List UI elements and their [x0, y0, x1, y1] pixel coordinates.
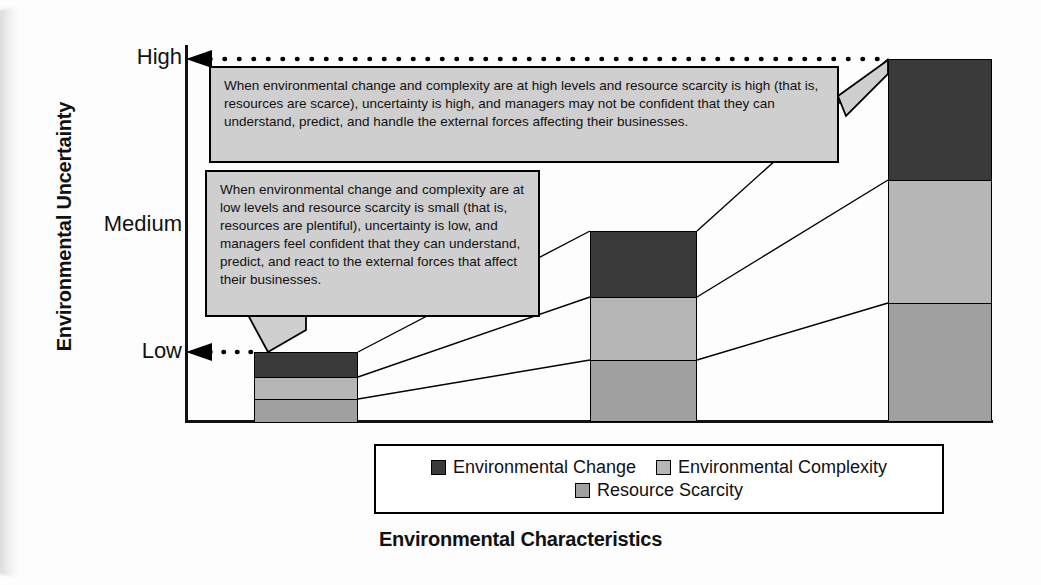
arrow-low-icon: [186, 343, 212, 361]
bar-segment-environmental-change: [254, 352, 358, 378]
bar-stack-high: [888, 59, 992, 422]
bar-segment-environmental-complexity: [254, 377, 358, 400]
legend-label-environmental-change: Environmental Change: [453, 457, 636, 478]
bar-segment-environmental-complexity: [590, 297, 697, 361]
bar-segment-resource-scarcity: [888, 303, 992, 422]
bar-segment-environmental-change: [590, 231, 697, 298]
callout-tail-low: [248, 315, 306, 352]
legend-row-top: Environmental Change Environmental Compl…: [431, 457, 887, 478]
legend-swatch-resource-scarcity: [575, 483, 590, 498]
chart-legend: Environmental Change Environmental Compl…: [374, 444, 944, 514]
y-tick-medium-label: Medium: [104, 213, 182, 235]
legend-item-resource-scarcity[interactable]: Resource Scarcity: [575, 480, 743, 501]
bar-segment-resource-scarcity: [590, 360, 697, 422]
low-uncertainty-callout: When environmental change and complexity…: [205, 170, 540, 317]
legend-swatch-environmental-change: [431, 460, 446, 475]
y-axis-line: [185, 45, 188, 423]
legend-item-environmental-change[interactable]: Environmental Change: [431, 457, 636, 478]
connector-change-bottom-2: [697, 180, 888, 297]
legend-label-resource-scarcity: Resource Scarcity: [597, 480, 743, 501]
connector-complexity-bottom: [358, 360, 590, 399]
bar-segment-environmental-change: [888, 59, 992, 181]
legend-row-bottom: Resource Scarcity: [575, 480, 743, 501]
y-tick-low-label: Low: [142, 340, 182, 362]
y-tick-high-label: High: [137, 46, 182, 68]
connector-complexity-bottom-2: [697, 303, 888, 360]
stacked-bar-chart: Environmental Uncertainty Environmental …: [0, 0, 1041, 585]
bar-stack-medium: [590, 231, 697, 422]
bar-segment-resource-scarcity: [254, 399, 358, 423]
y-axis-title: Environmental Uncertainty: [53, 77, 76, 377]
legend-item-environmental-complexity[interactable]: Environmental Complexity: [656, 457, 887, 478]
x-axis-title: Environmental Characteristics: [0, 528, 1041, 551]
legend-label-environmental-complexity: Environmental Complexity: [678, 457, 887, 478]
callout-tail-high: [838, 60, 888, 116]
high-uncertainty-callout: When environmental change and complexity…: [209, 66, 839, 163]
bar-stack-low: [254, 352, 358, 422]
bar-segment-environmental-complexity: [888, 180, 992, 304]
legend-swatch-environmental-complexity: [656, 460, 671, 475]
